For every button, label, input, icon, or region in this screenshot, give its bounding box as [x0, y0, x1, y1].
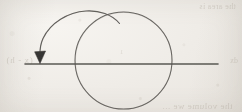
ink-drawing-layer: [0, 0, 242, 112]
rotation-arrow-arc: [40, 11, 120, 55]
rotation-arrow-arc-ghost: [40, 11, 120, 55]
scanned-figure: the area is (x - h) 1 dx the volume we .…: [0, 0, 242, 112]
